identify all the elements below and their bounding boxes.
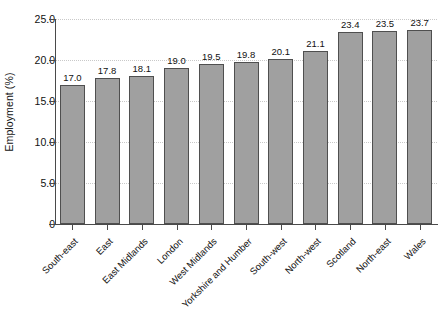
bar — [338, 32, 363, 224]
x-tickmark — [246, 224, 247, 230]
bar — [372, 31, 397, 224]
x-tickmark — [281, 224, 282, 230]
bar-chart: Employment (%) 05.010.015.020.025.0 17.0… — [0, 0, 445, 322]
x-tickmark — [142, 224, 143, 230]
y-axis-line — [55, 19, 56, 225]
bar — [95, 78, 120, 224]
x-tickmark — [315, 224, 316, 230]
x-axis-ticks — [0, 224, 445, 232]
x-tickmark — [72, 224, 73, 230]
bar — [199, 64, 224, 224]
bar — [234, 62, 259, 224]
plot-area: 17.017.818.119.019.519.820.121.123.423.5… — [55, 19, 437, 224]
bar — [164, 68, 189, 224]
bar — [60, 85, 85, 224]
x-tickmark — [107, 224, 108, 230]
x-tickmark — [385, 224, 386, 230]
x-tickmark — [177, 224, 178, 230]
bar — [268, 59, 293, 224]
bar — [303, 51, 328, 224]
x-tickmark — [211, 224, 212, 230]
bar-series: 17.017.818.119.019.519.820.121.123.423.5… — [55, 19, 437, 224]
bar — [407, 30, 432, 224]
bar-value-label: 21.1 — [295, 38, 335, 49]
x-tickmark — [420, 224, 421, 230]
x-tickmark — [350, 224, 351, 230]
bar-value-label: 23.7 — [400, 17, 440, 28]
bar — [129, 76, 154, 224]
